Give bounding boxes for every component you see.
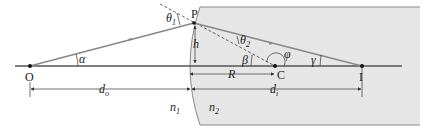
label-theta1: θ1 [166,11,176,27]
label-gamma: γ [311,53,316,67]
point-p [192,21,196,25]
refraction-diagram: O P C I α θ1 θ2 β φ γ h R do di n1 n2 [0,0,431,138]
point-i [360,64,364,68]
label-h: h [193,37,199,51]
label-phi: φ [284,47,291,61]
label-do: do [99,82,109,98]
point-o [28,64,32,68]
label-o: O [25,70,34,84]
label-r: R [227,67,236,81]
incident-ray [30,23,194,66]
label-alpha: α [79,52,86,66]
alpha-arc [76,54,78,66]
label-n1: n1 [170,100,180,116]
label-i: I [359,70,363,84]
label-beta: β [241,53,248,67]
label-p: P [191,7,198,21]
label-c: C [277,68,285,82]
